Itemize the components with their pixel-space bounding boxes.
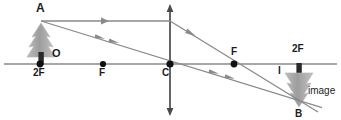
- label-image-marker: I: [278, 66, 281, 76]
- center-ray-arrow-2: [108, 39, 119, 44]
- optics-ray-diagram: A O 2F F C F 2F I B image: [0, 0, 341, 120]
- label-double-focal-left: 2F: [33, 68, 45, 78]
- label-object: O: [52, 48, 61, 59]
- label-focal-right: F: [231, 47, 237, 57]
- point-f-right: [231, 61, 238, 68]
- label-focal-left: F: [99, 68, 105, 78]
- parallel-ray-incident-arrow: [101, 18, 109, 25]
- label-double-focal-right: 2F: [292, 44, 304, 54]
- label-object-tip: A: [36, 2, 45, 14]
- label-image-word: image: [308, 86, 335, 96]
- center-ray-arrow-1: [94, 34, 105, 39]
- label-center: C: [162, 68, 169, 78]
- center-ray-arrow-4: [224, 74, 235, 79]
- parallel-ray-refracted-arrow: [185, 29, 196, 37]
- center-ray-arrow-3: [208, 69, 219, 74]
- object-tree: [27, 23, 55, 65]
- diagram-canvas: [0, 0, 341, 120]
- label-image-tip: B: [295, 109, 302, 119]
